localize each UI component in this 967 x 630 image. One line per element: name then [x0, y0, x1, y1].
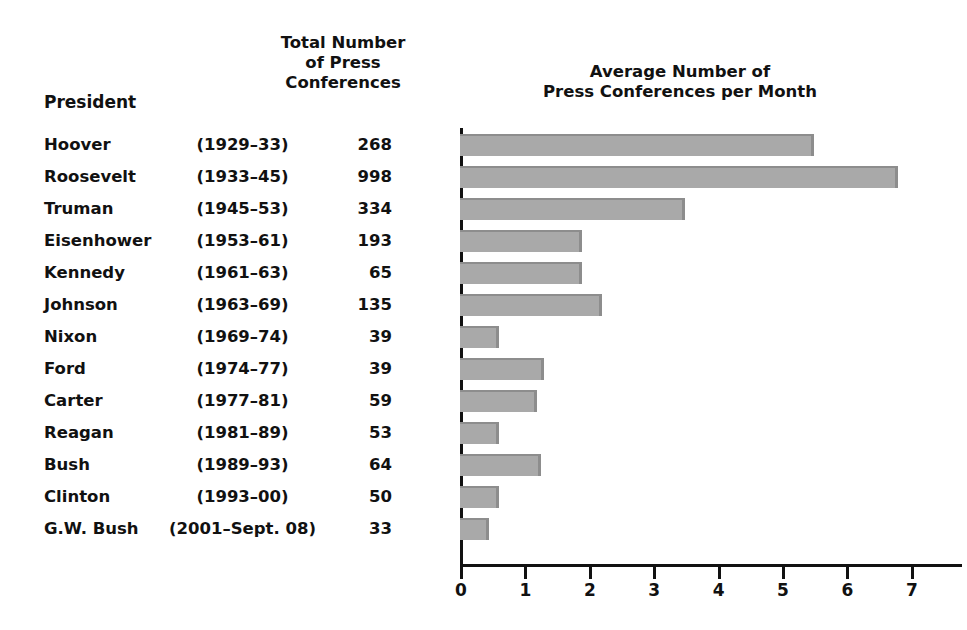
cell-president-name: Ford: [44, 353, 86, 385]
cell-total-count: 135: [330, 289, 392, 321]
cell-term-years: (1974–77): [160, 353, 325, 385]
table-row: Eisenhower(1953–61)193: [0, 225, 430, 257]
bar-nixon: [460, 326, 499, 348]
bar-chart: 01234567: [460, 128, 967, 578]
x-tick-mark: [846, 567, 849, 579]
cell-term-years: (1933–45): [160, 161, 325, 193]
cell-total-count: 50: [330, 481, 392, 513]
cell-president-name: Truman: [44, 193, 113, 225]
cell-term-years: (1981–89): [160, 417, 325, 449]
table-row: Reagan(1981–89)53: [0, 417, 430, 449]
bar-roosevelt: [460, 166, 898, 188]
cell-term-years: (1969–74): [160, 321, 325, 353]
cell-president-name: Nixon: [44, 321, 97, 353]
cell-total-count: 193: [330, 225, 392, 257]
x-tick-label: 4: [704, 580, 734, 600]
table-row: G.W. Bush(2001–Sept. 08)33: [0, 513, 430, 545]
x-tick-label: 0: [446, 580, 476, 600]
bar-truman: [460, 198, 685, 220]
bar-carter: [460, 390, 537, 412]
bar-bush: [460, 454, 541, 476]
cell-president-name: Eisenhower: [44, 225, 151, 257]
cell-president-name: Roosevelt: [44, 161, 136, 193]
x-tick-label: 6: [832, 580, 862, 600]
cell-term-years: (1961–63): [160, 257, 325, 289]
cell-term-years: (1945–53): [160, 193, 325, 225]
table-row: Bush(1989–93)64: [0, 449, 430, 481]
press-conference-chart-figure: President Total Number of Press Conferen…: [0, 0, 967, 630]
x-tick-mark: [524, 567, 527, 579]
x-tick-mark: [718, 567, 721, 579]
cell-total-count: 64: [330, 449, 392, 481]
cell-president-name: Carter: [44, 385, 103, 417]
cell-total-count: 53: [330, 417, 392, 449]
cell-term-years: (1993–00): [160, 481, 325, 513]
x-tick-label: 3: [639, 580, 669, 600]
cell-total-count: 33: [330, 513, 392, 545]
bar-ford: [460, 358, 544, 380]
cell-total-count: 39: [330, 353, 392, 385]
column-header-total-press-conferences: Total Number of Press Conferences: [268, 33, 418, 93]
table-row: Ford(1974–77)39: [0, 353, 430, 385]
x-tick-mark: [782, 567, 785, 579]
column-header-president: President: [44, 92, 136, 112]
cell-term-years: (1963–69): [160, 289, 325, 321]
cell-term-years: (1977–81): [160, 385, 325, 417]
x-tick-label: 1: [510, 580, 540, 600]
x-tick-mark: [460, 567, 463, 579]
x-tick-mark: [589, 567, 592, 579]
table-row: Hoover(1929–33)268: [0, 129, 430, 161]
cell-total-count: 268: [330, 129, 392, 161]
cell-president-name: Bush: [44, 449, 90, 481]
cell-total-count: 998: [330, 161, 392, 193]
table-row: Truman(1945–53)334: [0, 193, 430, 225]
bar-eisenhower: [460, 230, 582, 252]
bar-kennedy: [460, 262, 582, 284]
cell-president-name: Hoover: [44, 129, 111, 161]
x-tick-mark: [911, 567, 914, 579]
table-row: Clinton(1993–00)50: [0, 481, 430, 513]
cell-term-years: (2001–Sept. 08): [160, 513, 325, 545]
cell-president-name: Clinton: [44, 481, 110, 513]
cell-term-years: (1989–93): [160, 449, 325, 481]
x-axis-line: [460, 564, 962, 567]
x-tick-label: 5: [768, 580, 798, 600]
chart-title-average-per-month: Average Number of Press Conferences per …: [500, 62, 860, 102]
cell-president-name: Reagan: [44, 417, 114, 449]
bar-hoover: [460, 134, 814, 156]
bar-johnson: [460, 294, 602, 316]
x-tick-label: 2: [575, 580, 605, 600]
cell-total-count: 39: [330, 321, 392, 353]
cell-total-count: 59: [330, 385, 392, 417]
table-row: Kennedy(1961–63)65: [0, 257, 430, 289]
bar-clinton: [460, 486, 499, 508]
cell-term-years: (1929–33): [160, 129, 325, 161]
table-row: Johnson(1963–69)135: [0, 289, 430, 321]
cell-president-name: Johnson: [44, 289, 118, 321]
cell-total-count: 65: [330, 257, 392, 289]
table-row: Carter(1977–81)59: [0, 385, 430, 417]
bar-g-w-bush: [460, 518, 489, 540]
bar-reagan: [460, 422, 499, 444]
table-row: Roosevelt(1933–45)998: [0, 161, 430, 193]
table-row: Nixon(1969–74)39: [0, 321, 430, 353]
x-tick-label: 7: [897, 580, 927, 600]
cell-total-count: 334: [330, 193, 392, 225]
cell-president-name: Kennedy: [44, 257, 125, 289]
x-tick-mark: [653, 567, 656, 579]
cell-president-name: G.W. Bush: [44, 513, 139, 545]
cell-term-years: (1953–61): [160, 225, 325, 257]
